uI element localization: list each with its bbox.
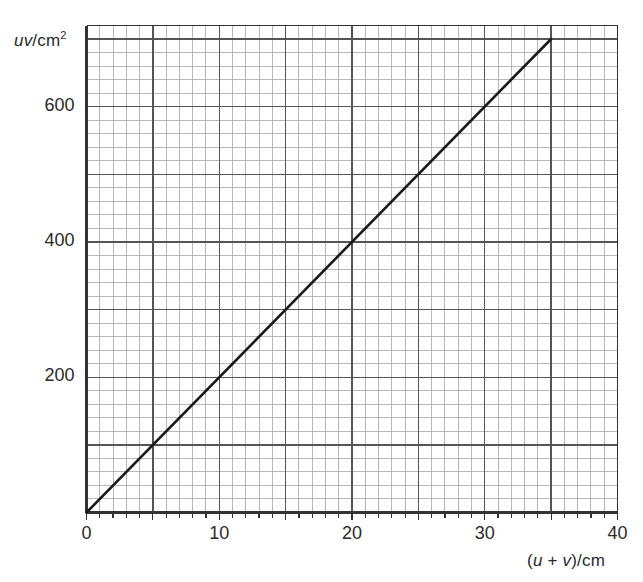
data-series-line xyxy=(87,39,552,512)
x-axis-tick-label: 0 xyxy=(57,523,117,544)
plot-area xyxy=(0,0,643,582)
chart-figure: uv/cm2 (u + v)/cm 200400600010203040 xyxy=(0,0,643,582)
y-axis-tick-label: 200 xyxy=(5,365,75,386)
x-axis-tick-label: 30 xyxy=(455,523,515,544)
series-line-0 xyxy=(87,39,552,512)
y-axis-tick-label: 600 xyxy=(5,95,75,116)
x-axis-tick-label: 40 xyxy=(588,523,643,544)
x-axis-tick-label: 20 xyxy=(322,523,382,544)
y-axis-tick-label: 400 xyxy=(5,230,75,251)
x-axis-tick-label: 10 xyxy=(189,523,249,544)
